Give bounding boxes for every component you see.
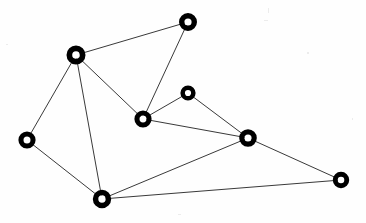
graph-node[interactable] <box>137 113 149 125</box>
graph-node-center <box>72 51 80 59</box>
graph-node-center <box>184 18 191 25</box>
graph-node-center <box>140 116 147 123</box>
graph-node-center <box>338 177 345 184</box>
graph-edge[interactable] <box>102 180 341 199</box>
graph-canvas <box>0 0 366 223</box>
graph-edge[interactable] <box>27 140 102 199</box>
graph-node[interactable] <box>21 134 33 146</box>
graph-node[interactable] <box>69 48 82 61</box>
graph-node-center <box>244 134 251 141</box>
graph-edge[interactable] <box>102 138 248 199</box>
graph-edge[interactable] <box>76 22 188 55</box>
graph-edge[interactable] <box>188 93 248 138</box>
graph-edge[interactable] <box>248 138 341 180</box>
graph-node[interactable] <box>96 193 109 206</box>
graph-figure <box>0 0 366 223</box>
graph-node[interactable] <box>242 132 254 144</box>
graph-node[interactable] <box>182 16 195 29</box>
graph-node-center <box>185 90 191 96</box>
graph-edge[interactable] <box>143 119 248 138</box>
graph-node[interactable] <box>335 174 347 186</box>
graph-edge[interactable] <box>27 55 76 140</box>
node-layer <box>21 16 347 206</box>
graph-node-center <box>98 195 105 202</box>
graph-node[interactable] <box>183 88 194 99</box>
graph-node-center <box>24 137 31 144</box>
graph-edge[interactable] <box>143 22 188 119</box>
